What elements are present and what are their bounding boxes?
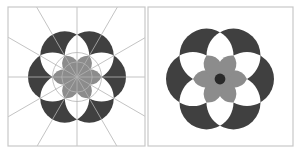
final-rosette-panel bbox=[148, 7, 293, 146]
center-dot bbox=[215, 74, 226, 85]
rosette-figure bbox=[0, 0, 298, 154]
